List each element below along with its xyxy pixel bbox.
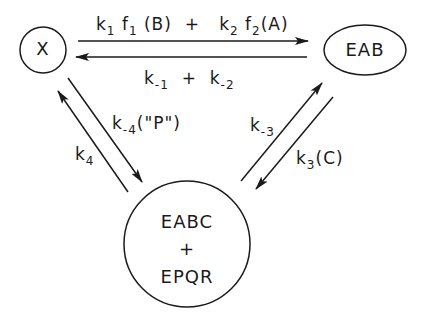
- rate-reverse-top: k-1 + k-2: [144, 70, 235, 91]
- arrow-eab-to-complex: [256, 97, 333, 189]
- node-eab-label: EAB: [334, 41, 396, 59]
- node-x-label: X: [30, 40, 56, 58]
- node-complex-label-3: EPQR: [147, 268, 227, 286]
- rate-left-down: k-4("P"): [112, 115, 181, 136]
- rate-right-up: k-3: [250, 117, 275, 138]
- node-complex-label-2: +: [147, 240, 227, 258]
- rate-forward-top: k1 f1 (B) + k2 f2(A): [96, 16, 289, 37]
- node-complex-label-1: EABC: [147, 213, 227, 231]
- arrow-complex-to-x: [58, 91, 128, 192]
- rate-left-up: k4: [75, 146, 95, 167]
- rate-right-down: k3(C): [296, 150, 344, 171]
